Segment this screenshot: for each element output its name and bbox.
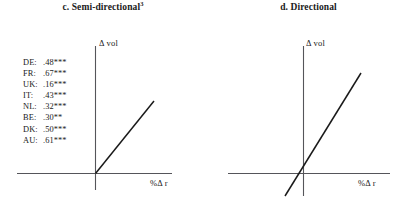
x-axis-label-directional: %Δ r (358, 178, 376, 188)
coefficient-row: IT:.43*** (23, 90, 67, 101)
coefficient-value: .67*** (43, 68, 67, 79)
coefficient-country-code: DE: (23, 57, 43, 68)
chart-panel-directional: d. Directional Δ vol %Δ r (206, 0, 411, 221)
coefficient-value: .48*** (43, 57, 67, 68)
coefficient-value: .30** (43, 112, 62, 123)
coefficient-row: DE:.48*** (23, 57, 67, 68)
coefficient-country-code: IT: (23, 90, 43, 101)
coefficient-country-code: BE: (23, 112, 43, 123)
coefficient-value: .32*** (43, 101, 67, 112)
coefficient-row: AU:.61*** (23, 135, 67, 146)
chart-panel-semi-directional: c. Semi-directional3 Δ vol %Δ r DE:.48**… (0, 0, 206, 221)
coefficient-country-code: NL: (23, 101, 43, 112)
coefficient-row: DK:.50*** (23, 124, 67, 135)
coefficient-row: UK:.16*** (23, 79, 67, 90)
coefficient-list: DE:.48***FR:.67***UK:.16***IT:.43***NL:.… (23, 57, 67, 146)
coefficient-value: .61*** (43, 135, 67, 146)
plot-area-directional (206, 0, 411, 221)
coefficient-country-code: AU: (23, 135, 43, 146)
x-axis-label-semi-directional: %Δ r (150, 178, 168, 188)
coefficient-country-code: DK: (23, 124, 43, 135)
data-line-directional (285, 73, 361, 196)
data-line-semi-directional (96, 101, 155, 174)
coefficient-value: .43*** (43, 90, 67, 101)
coefficient-row: FR:.67*** (23, 68, 67, 79)
y-axis-label-semi-directional: Δ vol (99, 38, 118, 48)
coefficient-value: .16*** (43, 79, 67, 90)
coefficient-value: .50*** (43, 124, 67, 135)
coefficient-row: NL:.32*** (23, 101, 67, 112)
coefficient-country-code: FR: (23, 68, 43, 79)
y-axis-label-directional: Δ vol (306, 38, 325, 48)
coefficient-country-code: UK: (23, 79, 43, 90)
coefficient-row: BE:.30** (23, 112, 67, 123)
